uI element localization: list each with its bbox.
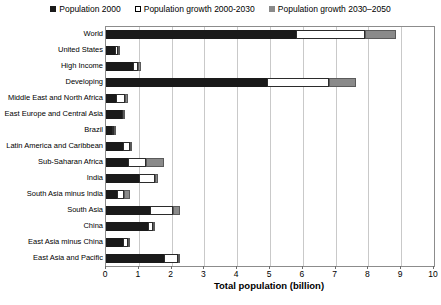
x-tick-label: 1 — [128, 269, 148, 279]
bar-segment — [106, 142, 123, 151]
population-bar-chart-figure: Population 2000Population growth 2000-20… — [0, 0, 441, 305]
bar-segment — [116, 94, 125, 103]
bar-segment — [153, 222, 155, 231]
bar-segment — [267, 78, 329, 87]
bar-segment — [106, 206, 150, 215]
bar-row — [106, 94, 434, 103]
bar-segment — [155, 174, 159, 183]
bar-segment — [106, 238, 123, 247]
bar-segment — [106, 62, 133, 71]
bar-row — [106, 126, 434, 135]
bar-segment — [138, 62, 141, 71]
y-axis-label: China — [83, 221, 103, 230]
bar-row — [106, 78, 434, 87]
x-tick-label: 10 — [423, 269, 441, 279]
legend-swatch-icon — [135, 6, 141, 12]
bar-segment — [106, 110, 122, 119]
bar-segment — [164, 254, 178, 263]
bar-segment — [178, 254, 180, 263]
bar-row — [106, 238, 434, 247]
x-axis-title: Total population (billion) — [105, 280, 433, 292]
x-tick-label: 3 — [193, 269, 213, 279]
bar-segment — [146, 158, 164, 167]
y-axis-label: South Asia minus India — [27, 189, 103, 198]
bar-row — [106, 222, 434, 231]
bar-segment — [106, 174, 139, 183]
legend-label: Population 2000 — [59, 4, 120, 14]
y-axis-label: South Asia — [67, 205, 103, 214]
y-axis-label: United States — [58, 45, 103, 54]
plot-area — [105, 26, 435, 267]
bar-segment — [365, 30, 396, 39]
y-axis-label: Latin America and Caribbean — [6, 141, 103, 150]
bar-segment — [296, 30, 365, 39]
bar-row — [106, 254, 434, 263]
y-axis-label: Brazil — [84, 125, 103, 134]
y-axis-label: High Income — [61, 61, 103, 70]
bar-segment — [128, 158, 146, 167]
bar-row — [106, 158, 434, 167]
legend-swatch-icon — [50, 6, 56, 12]
bar-row — [106, 206, 434, 215]
bar-segment — [106, 190, 117, 199]
x-tick-label: 5 — [259, 269, 279, 279]
y-axis-label: Middle East and North Africa — [8, 93, 103, 102]
bar-segment — [125, 94, 128, 103]
bar-segment — [124, 190, 130, 199]
legend-label: Population growth 2030–2050 — [278, 4, 391, 14]
bar-segment — [117, 190, 124, 199]
bar-segment — [128, 238, 130, 247]
bar-row — [106, 174, 434, 183]
bar-segment — [106, 30, 296, 39]
bar-row — [106, 30, 434, 39]
y-axis-category-labels: WorldUnited StatesHigh IncomeDevelopingM… — [0, 26, 103, 265]
legend-entry-2: Population growth 2030–2050 — [269, 4, 391, 14]
legend-entry-0: Population 2000 — [50, 4, 120, 14]
bar-segment — [139, 174, 154, 183]
y-axis-label: East Asia minus China — [28, 237, 103, 246]
bar-segment — [106, 94, 116, 103]
bar-row — [106, 62, 434, 71]
y-axis-label: World — [84, 29, 103, 38]
bar-segment — [114, 126, 116, 135]
chart-legend: Population 2000Population growth 2000-20… — [0, 2, 441, 16]
bar-segment — [123, 142, 130, 151]
bar-segment — [329, 78, 356, 87]
x-tick-label: 0 — [95, 269, 115, 279]
bar-row — [106, 46, 434, 55]
bar-segment — [106, 222, 148, 231]
bar-row — [106, 142, 434, 151]
bar-segment — [130, 142, 132, 151]
legend-entry-1: Population growth 2000-2030 — [135, 4, 255, 14]
x-tick-label: 2 — [161, 269, 181, 279]
y-axis-label: India — [87, 173, 103, 182]
x-tick-label: 6 — [292, 269, 312, 279]
y-axis-label: East Europe and Central Asia — [5, 109, 103, 118]
x-tick-label: 4 — [226, 269, 246, 279]
bar-segment — [106, 78, 267, 87]
bar-row — [106, 190, 434, 199]
bar-row — [106, 110, 434, 119]
y-axis-label: Developing — [65, 77, 103, 86]
bar-segment — [106, 254, 164, 263]
legend-swatch-icon — [269, 6, 275, 12]
legend-label: Population growth 2000-2030 — [144, 4, 255, 14]
x-axis-ticks: 012345678910 — [0, 266, 441, 278]
x-tick-label: 8 — [357, 269, 377, 279]
bar-segment — [123, 110, 125, 119]
bar-segment — [150, 206, 173, 215]
bar-segment — [106, 46, 115, 55]
y-axis-label: Sub-Saharan Africa — [38, 157, 103, 166]
x-tick-label: 7 — [325, 269, 345, 279]
bar-segment — [173, 206, 180, 215]
y-axis-label: East Asia and Pacific — [33, 253, 103, 262]
bar-rows — [106, 27, 434, 266]
x-tick-label: 9 — [390, 269, 410, 279]
bar-segment — [106, 158, 128, 167]
bar-segment — [118, 46, 120, 55]
